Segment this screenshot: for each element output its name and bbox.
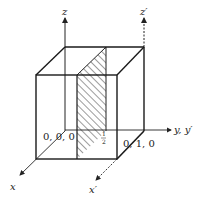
unit-cell-diagram: z z′ y, y′ x x′ 0, 0, 0 0, 1, 0 1 2	[0, 0, 202, 202]
z-prime-axis-label: z′	[139, 6, 148, 17]
x-prime-axis	[96, 159, 117, 180]
fraction-numerator: 1	[102, 130, 106, 137]
y-unit-label: 0, 1, 0	[123, 138, 155, 149]
x-axis-label: x	[10, 181, 16, 192]
x-prime-axis-label: x′	[89, 184, 98, 195]
cube-top-right-diag	[117, 47, 144, 75]
z-axis-label: z	[61, 6, 68, 17]
cube-top-left-diag	[36, 47, 65, 75]
origin-label: 0, 0, 0	[43, 131, 75, 142]
y-axis-label: y, y′	[173, 124, 193, 135]
fraction-denominator: 2	[102, 138, 106, 145]
